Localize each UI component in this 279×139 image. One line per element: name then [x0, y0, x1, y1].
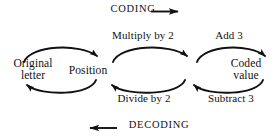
- node-coded-value-line-1: Coded: [213, 57, 279, 69]
- flow-label-decoding: DECODING: [118, 119, 200, 130]
- edge-label-add-3: Add 3: [187, 29, 271, 41]
- arrow-position-to-original: [27, 80, 96, 93]
- coding-decoding-diagram: Original letter Position Coded value Mul…: [0, 0, 279, 139]
- reverse-arrows-group: [27, 80, 263, 93]
- edge-label-multiply-by-2: Multiply by 2: [98, 29, 188, 41]
- arrow-intermediate-to-position: [112, 80, 185, 93]
- arrow-position-to-intermediate: [113, 48, 187, 62]
- node-position-line-1: Position: [57, 64, 119, 76]
- node-coded-value: Coded value: [213, 57, 279, 81]
- node-coded-value-line-2: value: [213, 69, 279, 81]
- flow-label-coding: CODING: [98, 3, 168, 14]
- arrow-coded-to-intermediate: [194, 80, 263, 93]
- node-position: Position: [57, 64, 119, 76]
- edge-label-subtract-3: Subtract 3: [188, 92, 274, 104]
- edge-label-divide-by-2: Divide by 2: [100, 92, 188, 104]
